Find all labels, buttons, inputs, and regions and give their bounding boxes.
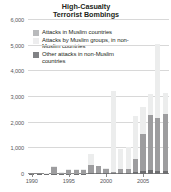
bar-segment-2006-1 xyxy=(148,94,153,115)
x-axis-tick-label-2005: 2005 xyxy=(137,178,149,185)
bar-1993 xyxy=(51,166,56,174)
bar-segment-1998-0 xyxy=(88,165,93,173)
x-axis-tick-1990 xyxy=(32,174,33,177)
y-axis-tick-label-3000: 3,000 xyxy=(11,94,25,100)
y-axis-tick-label-2000: 2,000 xyxy=(11,120,25,126)
bar-2008 xyxy=(163,93,168,174)
plot-area xyxy=(28,20,169,174)
x-axis-tick-label-2000: 2000 xyxy=(100,178,112,185)
x-axis-tick-label-1995: 1995 xyxy=(63,178,75,185)
bar-2006 xyxy=(148,94,153,174)
bar-segment-2008-1 xyxy=(163,93,168,114)
y-axis-tick-label-5000: 5,000 xyxy=(11,43,25,49)
bar-segment-2001-1 xyxy=(111,91,116,172)
bar-segment-2005-0 xyxy=(140,134,145,171)
y-axis-labels: 01,0002,0003,0004,0005,0006,000 xyxy=(0,20,26,174)
x-axis-tick-2005 xyxy=(143,174,144,177)
bar-1999 xyxy=(96,166,101,174)
bar-2005 xyxy=(140,107,145,174)
x-axis-tick-2000 xyxy=(106,174,107,177)
x-axis-tick-1995 xyxy=(69,174,70,177)
chart-title: High-Casualty Terrorist Bombings xyxy=(38,3,134,20)
y-axis-tick-label-1000: 1,000 xyxy=(11,145,25,151)
y-axis-tick-label-4000: 4,000 xyxy=(11,68,25,74)
bar-segment-1993-0 xyxy=(51,167,56,174)
bar-2007 xyxy=(155,44,160,174)
bar-segment-2003-1 xyxy=(126,147,131,168)
bar-series-group xyxy=(28,20,169,174)
bar-segment-2005-1 xyxy=(140,107,145,134)
bar-segment-2007-1 xyxy=(155,44,160,117)
bar-2004 xyxy=(133,116,138,175)
bar-segment-2004-0 xyxy=(133,159,138,172)
chart-container: High-Casualty Terrorist Bombings Attacks… xyxy=(0,0,171,192)
bar-segment-2002-1 xyxy=(118,149,123,169)
y-axis-tick-label-0: 0 xyxy=(21,171,24,177)
bar-2002 xyxy=(118,149,123,174)
x-axis-tick-label-1990: 1990 xyxy=(26,178,38,185)
bar-segment-2007-0 xyxy=(155,118,160,172)
y-axis-tick-label-6000: 6,000 xyxy=(11,17,25,23)
bar-segment-1999-0 xyxy=(96,166,101,173)
x-axis: 1990199520002005 xyxy=(28,174,169,192)
bar-segment-1998-1 xyxy=(88,154,93,165)
bar-segment-2008-0 xyxy=(163,114,168,170)
bar-2001 xyxy=(111,91,116,174)
bar-segment-2006-0 xyxy=(148,115,153,170)
bar-segment-2004-1 xyxy=(133,116,138,160)
bar-1998 xyxy=(88,154,93,174)
bar-2003 xyxy=(126,147,131,174)
